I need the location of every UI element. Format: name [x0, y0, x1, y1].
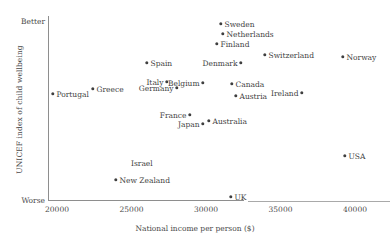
x-tick-label: 40000: [343, 205, 367, 214]
data-point-label: New Zealand: [120, 176, 170, 185]
data-point-label: UK: [235, 193, 247, 202]
data-point: [51, 92, 54, 95]
data-point-label: Finland: [221, 40, 250, 49]
x-tick-label: 35000: [269, 205, 293, 214]
data-point: [221, 32, 224, 35]
data-point-label: Austria: [240, 92, 268, 101]
data-point-label: Australia: [213, 117, 247, 126]
y-axis-top-label: Better: [21, 17, 45, 26]
data-point: [215, 42, 218, 45]
data-point-label: Switzerland: [269, 51, 314, 60]
data-point-label: Japan: [178, 120, 200, 129]
data-point: [300, 91, 303, 94]
y-axis-line: [48, 16, 49, 201]
data-point: [91, 87, 94, 90]
x-tick-label: 30000: [194, 205, 218, 214]
data-point-label: France: [160, 111, 187, 120]
data-point-label: Greece: [97, 85, 124, 94]
data-point-label: Sweden: [225, 20, 255, 29]
x-axis-title: National income per person ($): [0, 224, 390, 233]
data-point-label: Portugal: [57, 90, 89, 99]
data-point: [230, 82, 233, 85]
data-point: [114, 178, 117, 181]
data-point: [188, 113, 191, 116]
data-point: [201, 122, 204, 125]
y-axis-title: UNICEF index of child wellbeing: [15, 25, 24, 195]
data-point: [343, 154, 346, 157]
data-point: [234, 94, 237, 97]
data-point: [239, 61, 242, 64]
data-point: [263, 53, 266, 56]
x-tick-label: 20000: [45, 205, 69, 214]
data-point-label: USA: [349, 152, 366, 161]
x-tick-label: 25000: [120, 205, 144, 214]
data-point: [341, 55, 344, 58]
data-point-label: Israel: [131, 159, 153, 168]
data-point: [207, 119, 210, 122]
x-axis-line: [48, 200, 244, 201]
data-point: [229, 195, 232, 198]
data-point-label: Denmark: [203, 59, 238, 68]
data-point-label: Norway: [347, 53, 377, 62]
data-point: [219, 22, 222, 25]
data-point-label: Ireland: [271, 89, 299, 98]
data-point-label: Canada: [236, 80, 265, 89]
y-axis-bottom-label: Worse: [21, 196, 45, 205]
data-point: [201, 81, 204, 84]
x-axis-line-extension: [248, 201, 390, 202]
data-point: [145, 61, 148, 64]
scatter-chart: Better Worse UNICEF index of child wellb…: [0, 0, 390, 247]
data-point-label: Spain: [151, 59, 173, 68]
data-point-label: Netherlands: [227, 30, 274, 39]
data-point-label: Belgium: [168, 79, 200, 88]
